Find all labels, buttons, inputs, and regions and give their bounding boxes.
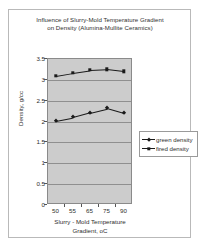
legend-item-label: fired density: [156, 145, 189, 152]
y-axis-tick-label: 0.5: [27, 180, 45, 187]
legend-item[interactable]: green density: [141, 135, 195, 144]
y-axis-tick-mark: [44, 204, 47, 205]
y-axis-tick-label: 0: [27, 201, 45, 208]
chart-figure-frame: Influence of Slurry-Mold Temperature Gra…: [8, 9, 191, 238]
x-axis-tick-label: 90: [120, 207, 127, 214]
y-axis-tick-label: 1: [27, 159, 45, 166]
x-axis-tick-labels: 5055657590: [47, 207, 132, 217]
legend-marker-icon: [141, 144, 156, 153]
y-axis-tick-mark: [44, 162, 47, 163]
legend-item[interactable]: fired density: [141, 144, 195, 153]
gridline: [48, 122, 131, 123]
legend-item-label: green density: [156, 136, 193, 143]
gridline: [48, 184, 131, 185]
x-axis-tick-label: 55: [69, 207, 76, 214]
y-axis-tick-mark: [44, 79, 47, 80]
y-axis-tick-mark: [44, 141, 47, 142]
x-axis-tick-mark: [98, 204, 99, 207]
gridline: [48, 163, 131, 164]
y-axis-title: Density, g/cc: [17, 81, 24, 137]
y-axis-tick-label: 2.5: [27, 96, 45, 103]
x-axis-tick-mark: [81, 204, 82, 207]
y-axis-tick-labels: 3.532.521.510.50: [27, 54, 45, 208]
x-axis-tick-mark: [64, 204, 65, 207]
y-axis-tick-label: 3: [27, 75, 45, 82]
y-axis-tick-mark: [44, 58, 47, 59]
x-axis-title-line-2: Gradient, oC: [29, 227, 151, 236]
y-axis-tick-mark: [44, 121, 47, 122]
y-axis-tick-label: 3.5: [27, 55, 45, 62]
x-axis-tick-label: 75: [103, 207, 110, 214]
y-axis-tick-mark: [44, 183, 47, 184]
chart-legend: green densityfired density: [139, 131, 198, 157]
y-axis-tick-mark: [44, 100, 47, 101]
legend-marker-icon: [141, 135, 156, 144]
x-axis-tick-label: 50: [52, 207, 59, 214]
x-axis-title: Slurry - Mold Temperature Gradient, oC: [29, 218, 151, 235]
chart-title-line-2: on Density (Alumina-Mullite Ceramics): [19, 24, 181, 32]
chart-title: Influence of Slurry-Mold Temperature Gra…: [19, 16, 181, 33]
x-axis-tick-label: 65: [86, 207, 93, 214]
gridline: [48, 142, 131, 143]
y-axis-tick-label: 2: [27, 117, 45, 124]
x-axis-title-line-1: Slurry - Mold Temperature: [29, 218, 151, 227]
gridline: [48, 101, 131, 102]
plot-area: [47, 58, 132, 204]
chart-title-line-1: Influence of Slurry-Mold Temperature Gra…: [19, 16, 181, 24]
y-axis-tick-label: 1.5: [27, 138, 45, 145]
gridline: [48, 80, 131, 81]
x-axis-tick-mark: [115, 204, 116, 207]
